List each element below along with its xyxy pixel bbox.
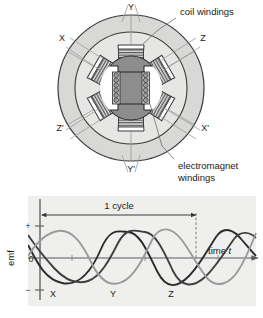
annotation-electromagnet-windings-line1: electromagnet: [178, 160, 239, 171]
figure-canvas: Y X Z Z' X' Y' coil windings electromagn…: [0, 0, 263, 318]
chart-ytick-minus: −: [25, 285, 30, 295]
pole-label-Z: Z: [200, 33, 206, 43]
electromagnet-winding-left: [113, 72, 121, 104]
pole-label-X: X: [59, 33, 65, 43]
series-label-Y: Y: [110, 289, 116, 299]
emf-chart: + 0 − emf time t 1 cycle X Y Z: [5, 196, 258, 306]
rotor-electromagnet: [110, 56, 152, 120]
pole-label-Yp: Y': [127, 164, 135, 174]
figure-motor-and-emf-chart: Y X Z Z' X' Y' coil windings electromagn…: [0, 0, 263, 318]
motor-cross-section: Y X Z Z' X' Y' coil windings electromagn…: [56, 2, 238, 183]
pole-label-Xp: X': [201, 123, 209, 133]
rotor-core-bar: [118, 72, 144, 104]
chart-ytick-plus: +: [25, 221, 30, 231]
electromagnet-winding-right: [142, 72, 150, 104]
pole-label-Zp: Z': [56, 123, 63, 133]
pole-label-Y: Y: [128, 2, 134, 12]
annotation-electromagnet-windings-line2: windings: [177, 172, 215, 183]
chart-y-axis-label: emf: [5, 250, 16, 266]
one-cycle-label: 1 cycle: [104, 200, 134, 211]
annotation-coil-windings: coil windings: [180, 6, 234, 17]
series-label-X: X: [50, 289, 56, 299]
series-label-Z: Z: [168, 289, 174, 299]
